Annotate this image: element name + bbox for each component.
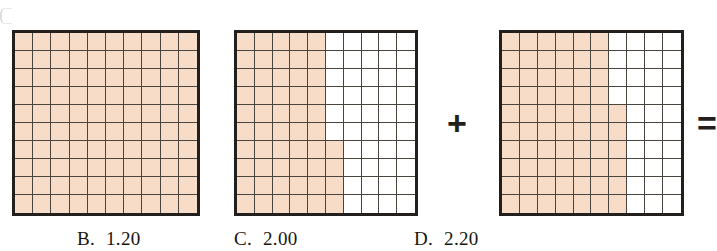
grid-cell <box>124 195 142 213</box>
grid-cell <box>308 33 326 51</box>
grid-cell <box>179 87 197 105</box>
grid-cell <box>237 177 255 195</box>
grid-c-cells <box>234 30 418 216</box>
grid-cell <box>574 141 592 159</box>
grid-cell <box>362 123 380 141</box>
grid-cell <box>663 177 681 195</box>
grid-cell <box>663 159 681 177</box>
grid-cell <box>106 51 124 69</box>
grid-cell <box>520 105 538 123</box>
grid-cell <box>161 87 179 105</box>
grid-cell <box>308 87 326 105</box>
grid-cell <box>15 51 33 69</box>
grid-cell <box>556 87 574 105</box>
grid-cell <box>273 141 291 159</box>
grid-cell <box>574 105 592 123</box>
grid-cell <box>106 177 124 195</box>
grid-cell <box>290 159 308 177</box>
grid-cell <box>88 141 106 159</box>
grid-cell <box>15 123 33 141</box>
grid-cell <box>645 177 663 195</box>
caption-b: B.1.20 <box>77 228 140 250</box>
grid-cell <box>290 33 308 51</box>
grid-cell <box>106 195 124 213</box>
grid-cell <box>379 123 397 141</box>
grid-cell <box>556 141 574 159</box>
grid-cell <box>344 105 362 123</box>
grid-cell <box>397 33 415 51</box>
grid-cell <box>591 87 609 105</box>
grid-cell <box>379 195 397 213</box>
grid-cell <box>70 195 88 213</box>
grid-cell <box>645 141 663 159</box>
grid-cell <box>255 105 273 123</box>
grid-cell <box>379 159 397 177</box>
grid-cell <box>273 51 291 69</box>
grid-cell <box>88 51 106 69</box>
grid-cell <box>273 159 291 177</box>
grid-cell <box>51 105 69 123</box>
grid-cell <box>273 69 291 87</box>
grid-cell <box>15 159 33 177</box>
grid-cell <box>88 195 106 213</box>
grid-cell <box>379 69 397 87</box>
grid-cell <box>255 195 273 213</box>
grid-cell <box>161 195 179 213</box>
grid-cell <box>255 51 273 69</box>
grid-cell <box>326 159 344 177</box>
grid-cell <box>237 123 255 141</box>
grid-cell <box>627 159 645 177</box>
caption-b-value: 1.20 <box>106 228 140 249</box>
grid-cell <box>663 105 681 123</box>
grid-d <box>499 30 684 216</box>
grid-cell <box>556 177 574 195</box>
grid-cell <box>663 87 681 105</box>
grid-cell <box>591 159 609 177</box>
caption-d: D.2.20 <box>414 228 479 250</box>
grid-cell <box>502 159 520 177</box>
grid-cell <box>344 123 362 141</box>
grid-cell <box>308 177 326 195</box>
grid-cell <box>88 159 106 177</box>
grid-cell <box>520 159 538 177</box>
grid-cell <box>502 87 520 105</box>
grid-cell <box>179 159 197 177</box>
grid-cell <box>124 177 142 195</box>
grid-cell <box>179 195 197 213</box>
grid-cell <box>627 33 645 51</box>
grid-cell <box>33 123 51 141</box>
grid-cell <box>609 87 627 105</box>
grid-cell <box>663 69 681 87</box>
grid-cell <box>88 105 106 123</box>
grid-cell <box>556 123 574 141</box>
grid-cell <box>237 51 255 69</box>
grid-cell <box>142 69 160 87</box>
grid-cell <box>273 177 291 195</box>
grid-cell <box>255 159 273 177</box>
grid-cell <box>344 69 362 87</box>
grid-cell <box>556 195 574 213</box>
grid-d-cells <box>499 30 684 216</box>
grid-cell <box>502 51 520 69</box>
grid-cell <box>609 69 627 87</box>
grid-cell <box>33 177 51 195</box>
grid-cell <box>142 51 160 69</box>
grid-cell <box>362 159 380 177</box>
grid-cell <box>538 33 556 51</box>
grid-cell <box>574 87 592 105</box>
grid-cell <box>255 123 273 141</box>
grid-cell <box>142 159 160 177</box>
grid-cell <box>344 141 362 159</box>
grid-cell <box>51 177 69 195</box>
grid-cell <box>591 141 609 159</box>
grid-cell <box>362 141 380 159</box>
grid-cell <box>179 51 197 69</box>
grid-cell <box>142 33 160 51</box>
grid-cell <box>142 141 160 159</box>
grid-cell <box>609 159 627 177</box>
grid-cell <box>627 195 645 213</box>
grid-cell <box>591 69 609 87</box>
grid-cell <box>344 177 362 195</box>
grid-cell <box>609 105 627 123</box>
grid-cell <box>645 33 663 51</box>
